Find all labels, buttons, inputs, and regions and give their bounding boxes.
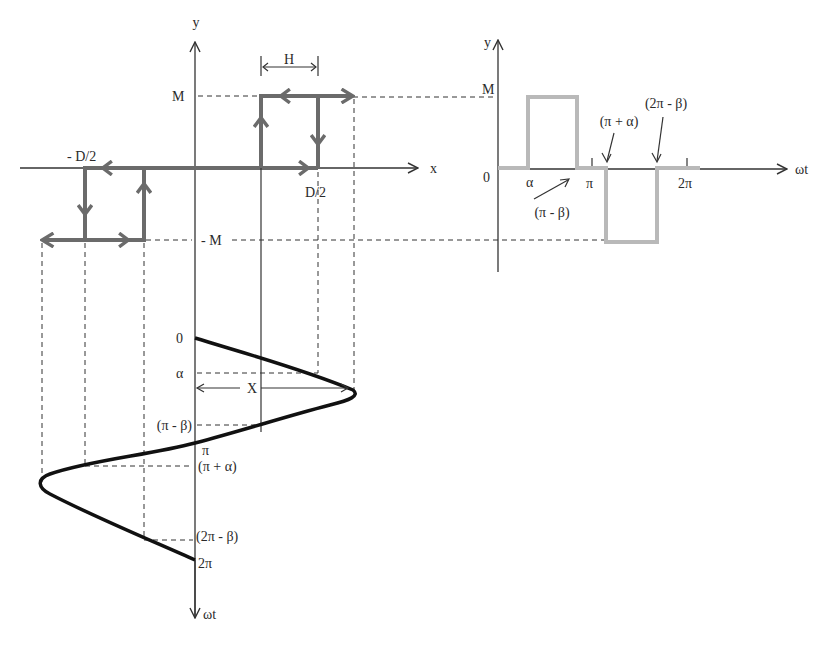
pi-plus-alpha-arrowhead — [602, 153, 611, 162]
input-wave: X 0 α (π - β) π (π + α) (2π - β) 2π ωt — [40, 331, 355, 622]
tick-pi-plus-alpha: (π + α) — [198, 459, 237, 475]
tick-zero: 0 — [176, 331, 183, 346]
right-m-label: M — [482, 82, 495, 97]
right-pi-label: π — [586, 176, 593, 191]
pi-minus-beta-arrow — [534, 180, 568, 199]
right-pi-minus-beta-label: (π - β) — [534, 205, 570, 221]
neg-d2-label: - D/2 — [67, 149, 96, 164]
two-pi-minus-beta-arrow — [657, 117, 663, 161]
x-amplitude-label: X — [247, 381, 257, 396]
loop-left — [85, 168, 195, 240]
neg-m-label: - M — [201, 233, 222, 248]
hysteresis-diagram: y x M - M - D/2 D/2 H X 0 α (π - β) π (π… — [0, 0, 823, 649]
right-alpha-label: α — [526, 175, 534, 190]
m-label: M — [172, 89, 185, 104]
right-two-pi-label: 2π — [678, 176, 692, 191]
right-y-label: y — [484, 35, 491, 50]
right-omega-t-label: ωt — [795, 162, 808, 177]
d2-label: D/2 — [305, 185, 326, 200]
omega-t-label-bottom: ωt — [203, 607, 216, 622]
left-y-label: y — [193, 15, 200, 30]
tick-two-pi-minus-beta: (2π - β) — [196, 529, 239, 545]
right-two-pi-minus-beta-label: (2π - β) — [645, 96, 688, 112]
h-label: H — [284, 52, 294, 67]
input-sinusoid — [40, 338, 355, 560]
tick-pi: π — [202, 443, 209, 458]
loop-right — [261, 96, 318, 168]
tick-two-pi: 2π — [198, 556, 212, 571]
left-x-label: x — [430, 161, 437, 176]
right-pi-plus-alpha-label: (π + α) — [600, 114, 639, 130]
right-plot: y M 0 α π 2π (π - β) (π + α) (2π - β) ωt — [482, 35, 808, 272]
pi-plus-alpha-arrow — [607, 133, 614, 161]
right-zero-label: 0 — [483, 170, 490, 185]
tick-pi-minus-beta: (π - β) — [157, 418, 193, 434]
left-plot: y x M - M - D/2 D/2 H — [20, 15, 605, 618]
tick-alpha: α — [176, 366, 184, 381]
two-pi-minus-beta-arrowhead — [652, 153, 661, 162]
